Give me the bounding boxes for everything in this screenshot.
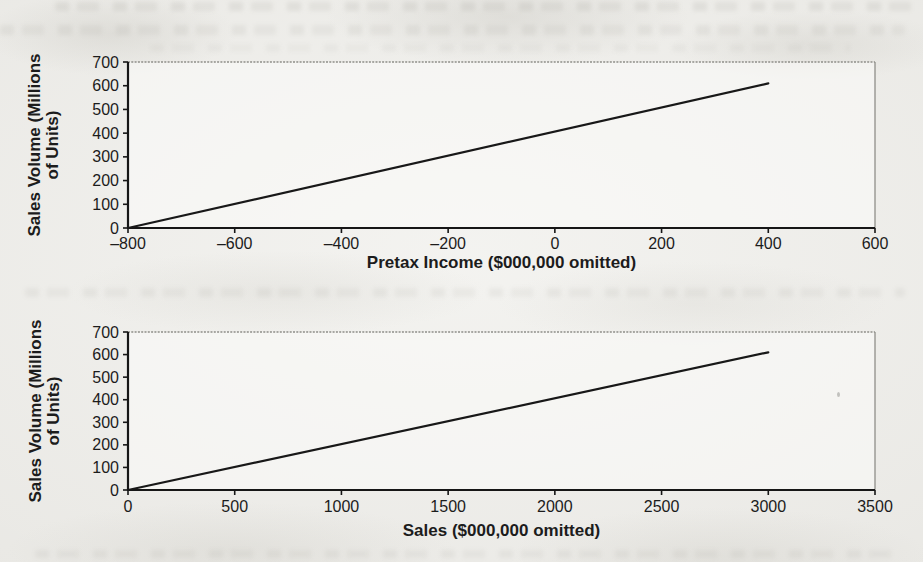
x-tick-label: 3500	[857, 498, 893, 515]
y-tick-label: 0	[110, 220, 119, 237]
y-axis-title: Sales Volume (Millions	[25, 54, 44, 237]
x-tick-label: 500	[221, 498, 248, 515]
y-tick-label: 500	[92, 369, 119, 386]
y-tick-label: 400	[92, 125, 119, 142]
y-tick-label: 500	[92, 101, 119, 118]
y-axis-title: Sales Volume (Millions	[26, 320, 45, 503]
x-tick-label: 1500	[430, 498, 466, 515]
y-tick-label: 600	[92, 77, 119, 94]
y-tick-label: 600	[92, 346, 119, 363]
y-tick-label: 700	[92, 54, 119, 71]
x-axis-title: Sales ($000,000 omitted)	[403, 521, 600, 540]
y-tick-label: 100	[92, 196, 119, 213]
x-tick-label: 2000	[537, 498, 573, 515]
x-tick-label: 200	[648, 235, 675, 252]
y-tick-label: 0	[110, 482, 119, 499]
charts-canvas: –800–600–400–200020040060001002003004005…	[0, 0, 923, 562]
x-tick-label: 0	[550, 235, 559, 252]
x-tick-label: –200	[430, 235, 466, 252]
y-tick-label: 700	[92, 324, 119, 341]
y-tick-label: 300	[92, 148, 119, 165]
sales-vs-volume-chart: 0500100015002000250030003500010020030040…	[26, 320, 893, 540]
pretax-income-vs-volume-chart: –800–600–400–200020040060001002003004005…	[25, 54, 888, 273]
x-tick-label: 600	[862, 235, 889, 252]
x-tick-label: 1000	[324, 498, 360, 515]
y-tick-label: 200	[92, 172, 119, 189]
y-axis-title: of Units)	[44, 377, 63, 446]
x-tick-label: 400	[755, 235, 782, 252]
y-axis-title: of Units)	[43, 111, 62, 180]
x-tick-label: 0	[124, 498, 133, 515]
y-tick-label: 400	[92, 391, 119, 408]
y-tick-label: 300	[92, 414, 119, 431]
y-tick-label: 200	[92, 436, 119, 453]
x-tick-label: –800	[110, 235, 146, 252]
x-tick-label: –400	[324, 235, 360, 252]
y-tick-label: 100	[92, 459, 119, 476]
x-axis-title: Pretax Income ($000,000 omitted)	[367, 253, 636, 272]
x-tick-label: –600	[217, 235, 253, 252]
x-tick-label: 2500	[644, 498, 680, 515]
x-tick-label: 3000	[750, 498, 786, 515]
